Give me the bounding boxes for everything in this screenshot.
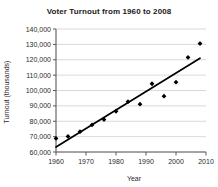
x-tick-label: 1980 <box>108 158 124 165</box>
data-point <box>174 80 179 85</box>
y-tick-label: 90,000 <box>30 102 52 109</box>
data-point <box>198 41 203 46</box>
x-tick-label: 2000 <box>168 158 184 165</box>
x-tick-labels-group: 196019701980199020002010 <box>48 158 214 165</box>
chart-container: Voter Turnout from 1960 to 2008 60,00070… <box>0 0 218 187</box>
y-tick-label: 80,000 <box>30 118 52 125</box>
y-tick-label: 60,000 <box>30 149 52 156</box>
y-tick-label: 120,000 <box>26 56 51 63</box>
x-tick-label: 2010 <box>198 158 214 165</box>
y-tick-label: 70,000 <box>30 133 52 140</box>
x-axis-title: Year <box>127 175 142 182</box>
y-tick-label: 110,000 <box>26 72 51 79</box>
y-axis-title: Turnout (thousands) <box>3 61 11 124</box>
y-tick-label: 130,000 <box>26 41 51 48</box>
y-tick-label: 140,000 <box>26 26 51 33</box>
x-tick-label: 1970 <box>78 158 94 165</box>
y-tick-label: 100,000 <box>26 87 51 94</box>
data-point <box>162 94 167 99</box>
x-tick-label: 1960 <box>48 158 64 165</box>
data-point <box>150 81 155 86</box>
data-point <box>186 55 191 60</box>
x-tick-label: 1990 <box>138 158 154 165</box>
chart-plot-area: 60,00070,00080,00090,000100,000110,00012… <box>0 0 218 187</box>
y-tick-labels-group: 60,00070,00080,00090,000100,000110,00012… <box>26 26 51 156</box>
data-points-group <box>54 41 203 141</box>
